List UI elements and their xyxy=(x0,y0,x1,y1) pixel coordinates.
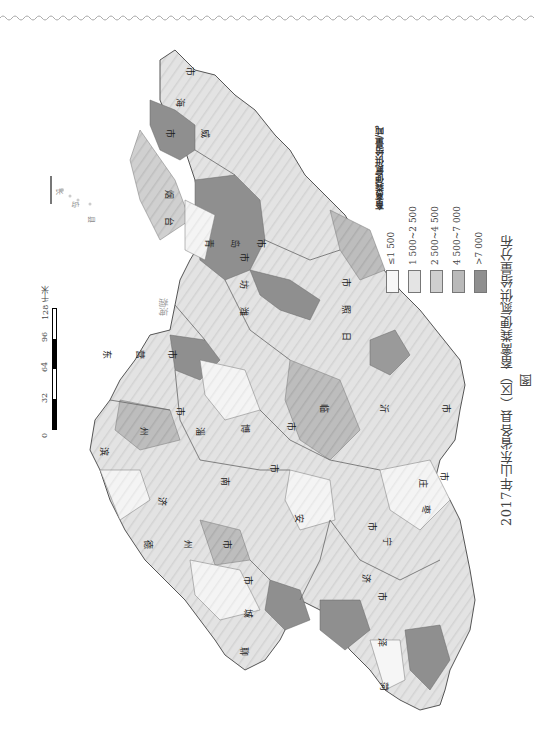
label-weihai-3: 市 xyxy=(164,129,177,138)
label-zaozhuang-2: 庄 xyxy=(417,479,430,488)
label-weihai-2: 海 xyxy=(174,98,187,107)
scale-tick-64: 64 xyxy=(40,362,54,372)
label-jining-1: 济 xyxy=(360,574,373,583)
label-taian-1: 安 xyxy=(293,514,306,523)
label-dezhou-3: 市 xyxy=(221,540,234,549)
legend-swatch-5 xyxy=(474,270,487,293)
label-linyi-1: 临 xyxy=(318,404,331,413)
label-yantai-2: 台 xyxy=(163,217,176,226)
label-weihai-1: 市 xyxy=(184,67,197,76)
legend: 畜禽粪便氮供给量/吨 ≤1 500 1 500~2 500 2 500~4 50… xyxy=(372,100,492,300)
label-rizhao-3: 市 xyxy=(340,278,353,287)
legend-label-2: 1 500~2 500 xyxy=(408,195,422,265)
label-weihai-4: 威 xyxy=(199,129,212,138)
north-arrow-line xyxy=(50,176,52,204)
legend-label-4: 4 500~7 000 xyxy=(452,195,466,265)
label-rizhao-2: 照 xyxy=(340,305,353,314)
label-zibo-3: 市 xyxy=(285,422,298,431)
label-qingdao-3: 市 xyxy=(255,239,268,248)
scale-tick-128: 128 千米 xyxy=(40,280,54,320)
label-linyi-2: 沂 xyxy=(378,404,391,413)
label-binzhou-2: 州 xyxy=(138,427,151,436)
scale-tick-32: 32 xyxy=(40,393,54,403)
label-yantai-1: 烟 xyxy=(163,190,176,199)
label-zibo-1: 淄 xyxy=(194,427,207,436)
legend-label-5: >7 000 xyxy=(474,195,488,265)
legend-swatch-4 xyxy=(452,270,465,293)
label-island-3: 县 xyxy=(87,216,97,223)
legend-swatch-3 xyxy=(430,270,443,293)
label-weifang-1: 潍 xyxy=(238,307,251,316)
label-dongying-2: 营 xyxy=(134,350,147,359)
label-binzhou-1: 滨 xyxy=(98,447,111,456)
label-weifang-3: 市 xyxy=(238,253,251,262)
legend-label-1: ≤1 500 xyxy=(386,195,400,265)
label-dongying-3: 市 xyxy=(166,350,179,359)
legend-title: 畜禽粪便氮供给量/吨 xyxy=(372,100,385,210)
label-heze-1: 菏 xyxy=(378,682,391,691)
label-dongying-1: 东 xyxy=(101,350,114,359)
label-rizhao-1: 日 xyxy=(340,332,353,341)
label-binzhou-3: 市 xyxy=(174,407,187,416)
label-sea-bohai-1: 渤海 xyxy=(157,298,170,316)
scale-tick-96: 96 xyxy=(40,332,54,342)
label-zibo-2: 博 xyxy=(239,424,252,433)
label-jinan-1: 济 xyxy=(156,497,169,506)
label-linyi-3: 市 xyxy=(440,404,453,413)
label-liaocheng-1: 聊 xyxy=(238,647,251,656)
label-jinan-2: 南 xyxy=(219,477,232,486)
scale-bar: 0 32 64 96 128 千米 xyxy=(40,300,80,440)
label-zaozhuang-3: 市 xyxy=(438,472,451,481)
scale-tick-0: 0 xyxy=(40,428,54,438)
label-dezhou-2: 州 xyxy=(182,540,195,549)
label-jinan-3: 市 xyxy=(268,464,281,473)
label-liaocheng-2: 城 xyxy=(242,609,255,618)
label-liaocheng-3: 市 xyxy=(242,576,255,585)
legend-label-3: 2 500~4 500 xyxy=(430,195,444,265)
map-title: 2017年山东省各县（区）畜禽粪便氮供给量分布图 xyxy=(497,230,527,530)
label-dezhou-1: 德 xyxy=(142,540,155,549)
label-weifang-2: 坊 xyxy=(238,280,251,289)
label-jining-2: 宁 xyxy=(381,537,394,546)
label-heze-2: 泽 xyxy=(376,638,389,647)
legend-swatch-1 xyxy=(386,270,399,293)
label-island-2: 岛 xyxy=(71,201,81,208)
legend-swatch-2 xyxy=(408,270,421,293)
label-heze-3: 市 xyxy=(376,592,389,601)
label-qingdao-1: 青 xyxy=(203,239,216,248)
label-jining-3: 市 xyxy=(366,522,379,531)
label-zaozhuang-1: 枣 xyxy=(420,505,433,514)
label-qingdao-2: 岛 xyxy=(229,239,242,248)
label-island-1: 长 xyxy=(55,188,65,195)
